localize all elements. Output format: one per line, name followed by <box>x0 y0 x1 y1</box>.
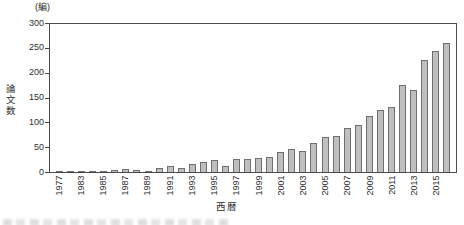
bar-slot <box>375 24 386 172</box>
x-tick-label: 2007 <box>342 176 353 206</box>
y-tick-label: 0 <box>0 167 44 178</box>
y-tick-label: 200 <box>0 67 44 78</box>
bar-slot <box>154 24 165 172</box>
bar <box>421 60 428 172</box>
bar-slot <box>264 24 275 172</box>
bar-slot <box>187 24 198 172</box>
unit-label: (編) <box>0 2 50 12</box>
x-axis-title: 西暦 <box>216 201 238 212</box>
x-tick-slot: 2007 <box>342 176 353 206</box>
x-tick-slot: 2003 <box>297 176 308 206</box>
x-tick-label: 1985 <box>97 176 108 206</box>
bar-slot <box>165 24 176 172</box>
bar-slot <box>109 24 120 172</box>
bar-slot <box>419 24 430 172</box>
bar <box>355 125 362 172</box>
y-tick-label: 300 <box>0 18 44 29</box>
bar <box>178 168 185 172</box>
x-tick-label: 2005 <box>320 176 331 206</box>
bar <box>244 159 251 172</box>
x-tick-label: 2003 <box>297 176 308 206</box>
bar <box>100 171 107 172</box>
bar <box>377 110 384 172</box>
bar-slot <box>54 24 65 172</box>
x-tick-slot: 2015 <box>431 176 442 206</box>
bar <box>89 171 96 172</box>
bar <box>322 137 329 172</box>
x-tick-slot <box>442 176 453 206</box>
x-tick-slot <box>86 176 97 206</box>
bar <box>399 85 406 172</box>
x-tick-slot: 2009 <box>364 176 375 206</box>
bar <box>156 168 163 172</box>
x-tick-label: 2015 <box>431 176 442 206</box>
bar-series <box>50 24 456 172</box>
bar <box>255 158 262 172</box>
bar <box>443 43 450 172</box>
x-tick-slot: 1987 <box>120 176 131 206</box>
chart-plot-area <box>49 23 457 173</box>
bar <box>222 166 229 172</box>
bar-slot <box>253 24 264 172</box>
x-tick-slot <box>153 176 164 206</box>
bar-slot <box>320 24 331 172</box>
x-tick-slot: 1983 <box>75 176 86 206</box>
bar <box>432 51 439 172</box>
bar-slot <box>275 24 286 172</box>
x-tick-slot: 2013 <box>409 176 420 206</box>
bar <box>288 149 295 172</box>
bar-slot <box>143 24 154 172</box>
bar-slot <box>386 24 397 172</box>
x-tick-label: 1999 <box>253 176 264 206</box>
bar <box>200 162 207 172</box>
bar-slot <box>87 24 98 172</box>
x-tick-label: 1983 <box>75 176 86 206</box>
bar-slot <box>98 24 109 172</box>
x-tick-slot <box>375 176 386 206</box>
bar <box>333 136 340 172</box>
bar <box>167 166 174 172</box>
x-axis-ticks: 1977198319851987198919911993199519971999… <box>49 176 457 206</box>
x-tick-slot <box>64 176 75 206</box>
y-tick-label: 250 <box>0 42 44 53</box>
x-tick-slot: 2001 <box>275 176 286 206</box>
x-tick-label: 1993 <box>186 176 197 206</box>
bar-slot <box>76 24 87 172</box>
x-tick-slot <box>331 176 342 206</box>
bar <box>122 169 129 172</box>
x-tick-slot: 2005 <box>320 176 331 206</box>
bar-slot <box>242 24 253 172</box>
x-tick-label: 2011 <box>386 176 397 206</box>
x-tick-slot: 2011 <box>386 176 397 206</box>
x-tick-label: 2001 <box>275 176 286 206</box>
bar-slot <box>286 24 297 172</box>
bar-slot <box>408 24 419 172</box>
x-tick-slot <box>309 176 320 206</box>
y-tick-label: 100 <box>0 117 44 128</box>
bar-chart-figure: { "chart_data": { "type": "bar", "title"… <box>0 0 464 225</box>
bar <box>145 171 152 172</box>
x-tick-slot: 1985 <box>97 176 108 206</box>
bar <box>133 170 140 172</box>
bar-slot <box>331 24 342 172</box>
bar-slot <box>220 24 231 172</box>
x-tick-slot <box>109 176 120 206</box>
bar <box>344 128 351 172</box>
bar <box>410 90 417 172</box>
bar-slot <box>209 24 220 172</box>
bar-slot <box>441 24 452 172</box>
x-tick-label: 1989 <box>142 176 153 206</box>
bar <box>266 157 273 172</box>
bar <box>78 171 85 172</box>
x-tick-label: 1987 <box>120 176 131 206</box>
bar <box>388 107 395 172</box>
bar <box>299 151 306 172</box>
x-tick-slot <box>286 176 297 206</box>
x-tick-label: 2013 <box>409 176 420 206</box>
y-tick-label: 50 <box>0 142 44 153</box>
x-tick-slot: 1977 <box>53 176 64 206</box>
x-tick-slot <box>397 176 408 206</box>
x-tick-slot: 1993 <box>186 176 197 206</box>
cutoff-caption-fragment <box>3 219 229 225</box>
bar-slot <box>176 24 187 172</box>
